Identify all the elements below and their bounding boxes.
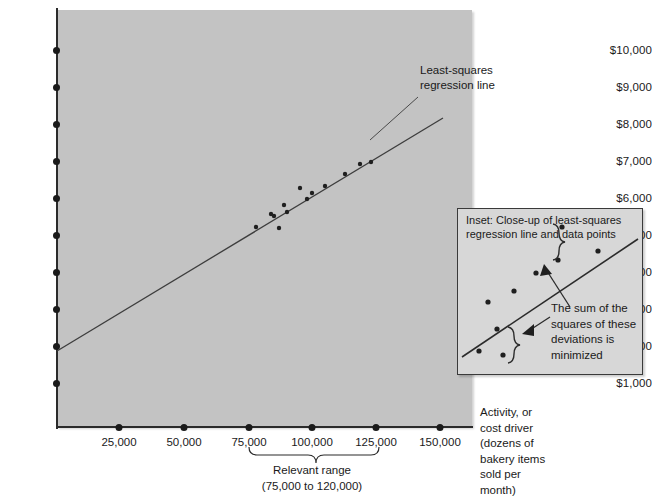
inset-arrow-lower-shaft — [530, 317, 550, 330]
x-tick-label-75000: 75,000 — [231, 436, 266, 448]
inset-caption-line1: Inset: Close-up of least-squares — [466, 213, 642, 227]
y-tick-dot-7000 — [53, 158, 60, 165]
inset-data-point — [500, 352, 505, 357]
plot-area — [57, 10, 472, 427]
y-tick-label-6000: $6,000 — [600, 193, 652, 204]
x-tick-label-50000: 50,000 — [166, 436, 201, 448]
inset-panel: Inset: Close-up of least-squares regress… — [457, 208, 643, 375]
x-tick-dot-125000 — [373, 424, 380, 431]
y-tick-dot-6000 — [53, 195, 60, 202]
inset-data-point — [555, 257, 560, 262]
x-tick-label-100000: 100,000 — [291, 436, 333, 448]
relevant-range-caption: Relevant range (75,000 to 120,000) — [262, 462, 362, 494]
y-tick-dot-9000 — [53, 84, 60, 91]
inset-data-point — [494, 326, 499, 331]
regression-callout-line2: regression line — [420, 78, 495, 93]
x-axis-title-line2: cost driver — [480, 421, 630, 437]
inset-data-point — [485, 299, 490, 304]
y-tick-dot-8000 — [53, 121, 60, 128]
inset-note-line3: deviations is — [551, 332, 643, 348]
x-tick-dot-150000 — [437, 424, 444, 431]
inset-note-line4: minimized — [551, 348, 643, 364]
inset-note: The sum of the squares of these deviatio… — [551, 301, 643, 363]
x-tick-dot-100000 — [309, 424, 316, 431]
y-tick-dot-10000 — [53, 47, 60, 54]
x-tick-dot-25000 — [116, 424, 123, 431]
inset-data-point — [533, 270, 538, 275]
inset-brace-lower — [508, 327, 520, 363]
figure-root: $10,000 $9,000 $8,000 $7,000 $6,000 $5,0… — [0, 0, 652, 498]
y-tick-dot-4000 — [53, 269, 60, 276]
inset-data-point — [511, 288, 516, 293]
inset-caption: Inset: Close-up of least-squares regress… — [466, 213, 642, 241]
x-axis-title-line5: sold per — [480, 467, 630, 483]
inset-data-point — [476, 348, 481, 353]
y-axis-line — [56, 8, 58, 429]
x-tick-dot-50000 — [181, 424, 188, 431]
inset-arrow-lower-head — [522, 324, 534, 336]
y-tick-label-8000: $8,000 — [600, 119, 652, 130]
y-tick-label-9000: $9,000 — [600, 82, 652, 93]
inset-caption-line2: regression line and data points — [466, 227, 642, 241]
regression-line-callout: Least-squares regression line — [420, 63, 495, 93]
y-tick-label-10000: $10,000 — [600, 45, 652, 56]
y-tick-label-1000: $1,000 — [600, 378, 652, 389]
regression-callout-line1: Least-squares — [420, 63, 495, 78]
y-tick-dot-5000 — [53, 232, 60, 239]
relevant-range-brace — [249, 447, 379, 463]
x-tick-dot-75000 — [246, 424, 253, 431]
relevant-range-line2: (75,000 to 120,000) — [262, 478, 362, 494]
x-tick-label-25000: 25,000 — [101, 436, 136, 448]
x-tick-label-150000: 150,000 — [419, 436, 461, 448]
inset-note-line1: The sum of the — [551, 301, 643, 317]
x-axis-title-line6: month) — [480, 483, 630, 498]
y-tick-dot-2000 — [53, 343, 60, 350]
y-tick-label-7000: $7,000 — [600, 156, 652, 167]
x-axis-title-line3: (dozens of — [480, 436, 630, 452]
y-tick-dot-3000 — [53, 306, 60, 313]
y-tick-dot-1000 — [53, 380, 60, 387]
x-axis-title-line4: bakery items — [480, 452, 630, 468]
inset-data-point — [595, 248, 600, 253]
relevant-range-line1: Relevant range — [262, 462, 362, 478]
inset-arrow-upper-head — [540, 264, 552, 276]
x-tick-label-125000: 125,000 — [355, 436, 397, 448]
inset-note-line2: squares of these — [551, 317, 643, 333]
x-axis-title: Activity, or cost driver (dozens of bake… — [480, 405, 630, 498]
x-axis-title-line1: Activity, or — [480, 405, 630, 421]
